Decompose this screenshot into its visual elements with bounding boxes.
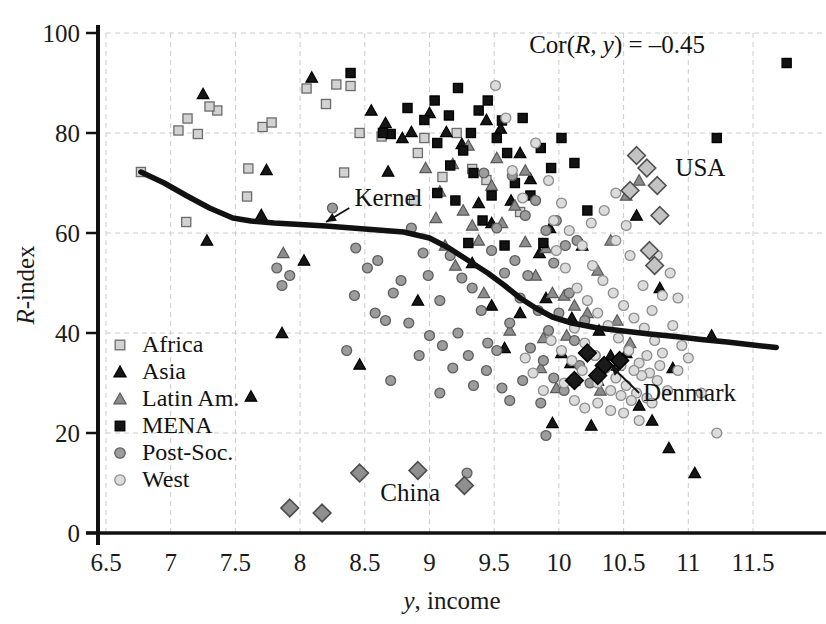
x-tick-label: 8 bbox=[294, 549, 307, 576]
legend-item-asia[interactable]: Asia bbox=[114, 358, 186, 384]
data-point-circle bbox=[350, 291, 360, 301]
data-point-circle bbox=[606, 406, 616, 416]
data-point-circle bbox=[621, 381, 631, 391]
data-point-triangle bbox=[486, 300, 498, 310]
data-point-triangle bbox=[478, 287, 490, 297]
data-point-circle bbox=[619, 408, 629, 418]
data-point-circle bbox=[549, 258, 559, 268]
data-point-triangle bbox=[114, 393, 126, 404]
data-point-triangle bbox=[646, 415, 658, 425]
data-point-square bbox=[244, 164, 253, 173]
data-point-circle bbox=[560, 263, 570, 273]
data-point-circle bbox=[538, 356, 548, 366]
y-tick-label: 80 bbox=[55, 120, 80, 147]
data-point-diamond bbox=[648, 177, 666, 195]
data-point-circle bbox=[492, 346, 502, 356]
y-tick-label: 0 bbox=[68, 520, 81, 547]
data-point-circle bbox=[487, 246, 497, 256]
data-point-circle bbox=[712, 428, 722, 438]
legend-label: Asia bbox=[142, 358, 186, 384]
data-point-circle bbox=[438, 341, 448, 351]
legend-item-latin-am[interactable]: Latin Am. bbox=[114, 385, 239, 411]
data-point-square bbox=[464, 238, 473, 247]
data-point-circle bbox=[668, 321, 678, 331]
data-point-square bbox=[413, 148, 422, 157]
data-point-diamond bbox=[351, 464, 369, 482]
data-point-circle bbox=[611, 236, 621, 246]
data-point-square bbox=[518, 113, 527, 122]
x-tick-label: 9 bbox=[423, 549, 436, 576]
legend-item-mena[interactable]: MENA bbox=[115, 412, 213, 438]
scatter-chart-figure: 0204060801006.577.588.599.51010.51111.5y… bbox=[0, 0, 826, 624]
data-point-circle bbox=[593, 308, 603, 318]
data-point-circle bbox=[549, 216, 559, 226]
data-point-circle bbox=[518, 376, 528, 386]
legend-item-africa[interactable]: Africa bbox=[115, 331, 203, 357]
data-point-square bbox=[547, 163, 556, 172]
data-point-circle bbox=[115, 448, 125, 458]
data-point-triangle bbox=[514, 307, 526, 317]
data-point-diamond bbox=[409, 462, 427, 480]
data-point-square bbox=[267, 118, 276, 127]
data-point-circle bbox=[538, 386, 548, 396]
data-point-square bbox=[446, 161, 455, 170]
axes: 0204060801006.577.588.599.51010.51111.5y… bbox=[12, 20, 826, 614]
data-point-circle bbox=[621, 221, 631, 231]
data-point-circle bbox=[551, 246, 561, 256]
data-point-square bbox=[452, 128, 461, 137]
data-point-triangle bbox=[430, 212, 442, 222]
x-tick-label: 8.5 bbox=[349, 549, 380, 576]
data-point-circle bbox=[564, 226, 574, 236]
data-point-square bbox=[378, 128, 387, 137]
data-point-diamond bbox=[456, 477, 474, 495]
data-point-circle bbox=[531, 196, 541, 206]
data-point-circle bbox=[457, 273, 467, 283]
data-point-square bbox=[500, 241, 509, 250]
legend-item-post-soc[interactable]: Post-Soc. bbox=[115, 439, 234, 465]
data-point-circle bbox=[418, 248, 428, 258]
data-point-circle bbox=[593, 398, 603, 408]
data-point-square bbox=[420, 115, 429, 124]
data-point-circle bbox=[572, 283, 582, 293]
data-point-circle bbox=[423, 271, 433, 281]
data-point-triangle bbox=[441, 126, 453, 136]
data-point-triangle bbox=[255, 209, 267, 219]
data-point-circle bbox=[616, 391, 626, 401]
data-point-square bbox=[570, 158, 579, 167]
data-point-circle bbox=[362, 263, 372, 273]
data-point-square bbox=[539, 238, 548, 247]
data-point-square bbox=[444, 111, 453, 120]
data-point-circle bbox=[491, 81, 501, 91]
data-point-square bbox=[302, 84, 311, 93]
data-point-circle bbox=[483, 338, 493, 348]
data-point-circle bbox=[467, 283, 477, 293]
data-point-circle bbox=[655, 361, 665, 371]
data-point-triangle bbox=[519, 236, 531, 246]
data-point-triangle bbox=[277, 247, 289, 257]
data-point-circle bbox=[611, 188, 621, 198]
legend-item-west[interactable]: West bbox=[115, 466, 190, 492]
y-axis-title: R-index bbox=[12, 245, 39, 326]
data-point-triangle bbox=[473, 235, 485, 245]
data-point-triangle bbox=[514, 147, 526, 157]
data-point-circle bbox=[115, 475, 125, 485]
data-point-triangle bbox=[201, 235, 213, 245]
data-point-circle bbox=[505, 318, 515, 328]
data-point-square bbox=[258, 122, 267, 131]
data-point-square bbox=[451, 196, 460, 205]
data-point-triangle bbox=[585, 420, 597, 430]
data-point-circle bbox=[414, 351, 424, 361]
data-point-triangle bbox=[365, 105, 377, 115]
data-point-circle bbox=[536, 398, 546, 408]
data-point-circle bbox=[569, 336, 579, 346]
data-point-circle bbox=[577, 366, 587, 376]
data-point-circle bbox=[531, 138, 541, 148]
data-point-circle bbox=[582, 296, 592, 306]
data-point-circle bbox=[586, 218, 596, 228]
data-point-square bbox=[469, 168, 478, 177]
annotation-usa: USA bbox=[675, 154, 725, 181]
data-point-square bbox=[557, 133, 566, 142]
data-point-circle bbox=[541, 431, 551, 441]
x-tick-label: 9.5 bbox=[479, 549, 510, 576]
x-tick-label: 10.5 bbox=[602, 549, 646, 576]
